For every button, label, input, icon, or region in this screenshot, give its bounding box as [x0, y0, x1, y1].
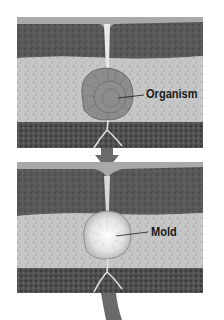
mold-label: Mold: [151, 224, 177, 239]
arrow-tail: [101, 293, 122, 320]
fossil-diagram: Organism Mold: [0, 0, 224, 320]
organism-shell-icon: [82, 68, 133, 120]
panel-top: [17, 17, 203, 148]
organism-label: Organism: [146, 86, 198, 101]
